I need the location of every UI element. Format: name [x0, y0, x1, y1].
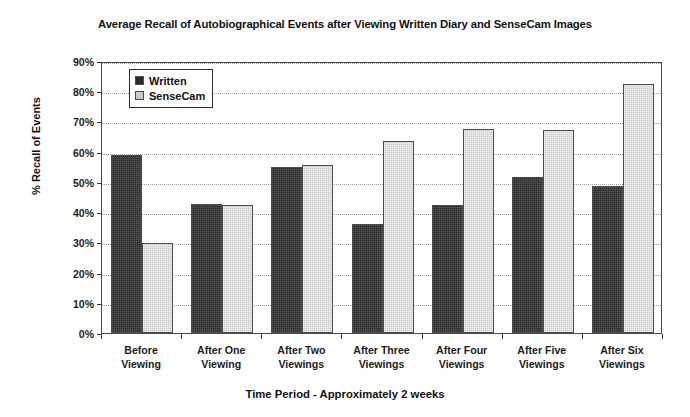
bar-written-2 — [271, 167, 302, 333]
bar-written-4 — [432, 205, 463, 333]
y-axis-tick-label: 40% — [46, 207, 94, 219]
plot-area: Written SenseCam — [101, 62, 662, 334]
x-axis-tick-label: After FiveViewings — [499, 343, 585, 371]
legend-label-sensecam: SenseCam — [149, 90, 205, 102]
y-axis-tick-mark — [97, 153, 102, 154]
x-axis-tick-label-line: Viewings — [339, 357, 425, 371]
y-axis-tick-label: 70% — [46, 116, 94, 128]
x-axis-label: Time Period - Approximately 2 weeks — [0, 388, 690, 400]
y-axis-tick-label: 90% — [46, 56, 94, 68]
bar-sensecam-5 — [543, 130, 574, 333]
y-axis-tick-mark — [97, 213, 102, 214]
x-axis-tick-label: After OneViewing — [178, 343, 264, 371]
x-axis-tick-label-line: After Three — [339, 343, 425, 357]
y-axis-tick-mark — [97, 243, 102, 244]
chart-legend: Written SenseCam — [129, 69, 213, 108]
gridline — [102, 63, 661, 64]
x-axis-tick-mark — [422, 334, 423, 339]
chart-figure: Average Recall of Autobiographical Event… — [0, 0, 690, 417]
x-axis-tick-label-line: After Two — [258, 343, 344, 357]
x-axis-tick-label-line: After Five — [499, 343, 585, 357]
x-axis-tick-label: BeforeViewing — [98, 343, 184, 371]
bar-sensecam-4 — [463, 129, 494, 333]
x-axis-tick-mark — [261, 334, 262, 339]
y-axis-tick-label: 20% — [46, 268, 94, 280]
y-axis-tick-label: 60% — [46, 147, 94, 159]
legend-swatch-sensecam-icon — [135, 91, 144, 100]
x-axis-tick-mark — [582, 334, 583, 339]
gridline — [102, 123, 661, 124]
legend-item-written: Written — [135, 73, 205, 88]
x-axis-tick-label-line: Viewing — [98, 357, 184, 371]
y-axis-tick-mark — [97, 92, 102, 93]
x-axis-tick-label-line: Viewings — [579, 357, 665, 371]
x-axis-tick-label-line: Viewings — [499, 357, 585, 371]
gridline — [102, 214, 661, 215]
x-axis-tick-label-line: Viewing — [178, 357, 264, 371]
legend-swatch-written-icon — [135, 76, 144, 85]
x-axis-tick-label-line: After One — [178, 343, 264, 357]
x-axis-tick-label-line: After Six — [579, 343, 665, 357]
y-axis-tick-mark — [97, 304, 102, 305]
x-axis-tick-label: After FourViewings — [419, 343, 505, 371]
bar-sensecam-0 — [142, 243, 173, 333]
y-axis-tick-mark — [97, 122, 102, 123]
bar-written-1 — [191, 204, 222, 333]
x-axis-tick-mark — [502, 334, 503, 339]
gridline — [102, 184, 661, 185]
chart-title: Average Recall of Autobiographical Event… — [0, 18, 690, 30]
x-axis-tick-label-line: After Four — [419, 343, 505, 357]
x-axis-tick-label: After ThreeViewings — [339, 343, 425, 371]
bar-written-5 — [512, 177, 543, 333]
y-axis-tick-mark — [97, 62, 102, 63]
x-axis-tick-label-line: Viewings — [419, 357, 505, 371]
gridline — [102, 154, 661, 155]
legend-item-sensecam: SenseCam — [135, 88, 205, 103]
x-axis-tick-label-line: Viewings — [258, 357, 344, 371]
x-axis-tick-mark — [662, 334, 663, 339]
bar-sensecam-3 — [383, 141, 414, 333]
bar-sensecam-6 — [623, 84, 654, 333]
y-axis-tick-label: 0% — [46, 328, 94, 340]
y-axis-tick-label: 30% — [46, 237, 94, 249]
x-axis-tick-label-line: Before — [98, 343, 184, 357]
x-axis-tick-label: After TwoViewings — [258, 343, 344, 371]
y-axis-tick-label: 50% — [46, 177, 94, 189]
y-axis-tick-label: 80% — [46, 86, 94, 98]
bar-written-6 — [592, 186, 623, 333]
x-axis-tick-mark — [181, 334, 182, 339]
bar-written-0 — [111, 155, 142, 333]
bar-sensecam-1 — [222, 205, 253, 333]
y-axis-tick-mark — [97, 274, 102, 275]
x-axis-tick-mark — [101, 334, 102, 339]
x-axis-tick-mark — [341, 334, 342, 339]
legend-label-written: Written — [149, 75, 187, 87]
bar-sensecam-2 — [302, 165, 333, 333]
y-axis-tick-label: 10% — [46, 298, 94, 310]
bar-written-3 — [352, 224, 383, 333]
y-axis-label: % Recall of Events — [30, 46, 42, 246]
x-axis-tick-label: After SixViewings — [579, 343, 665, 371]
y-axis-tick-mark — [97, 183, 102, 184]
